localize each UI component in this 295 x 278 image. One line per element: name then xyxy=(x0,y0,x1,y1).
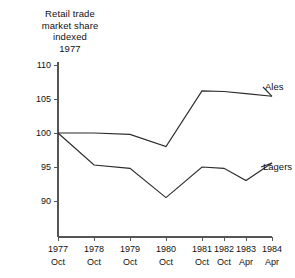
x-tick-label-month: Oct xyxy=(195,257,210,267)
series-line-lagers xyxy=(58,133,272,198)
x-tick-label-month: Apr xyxy=(265,257,279,267)
y-tick-label: 90 xyxy=(41,196,51,206)
x-tick-label-month: Oct xyxy=(87,257,102,267)
x-tick-label-month: Oct xyxy=(217,257,232,267)
chart-figure: Retail trade market share indexed 1977 1… xyxy=(0,0,295,278)
x-tick-label-year: 1982 xyxy=(214,244,234,254)
y-tick-label: 95 xyxy=(41,162,51,172)
x-tick-label-year: 1984 xyxy=(262,244,282,254)
y-tick-label: 110 xyxy=(37,60,51,70)
x-tick-label-year: 1981 xyxy=(192,244,212,254)
y-tick-label: 105 xyxy=(36,94,51,104)
series-label-lagers: Lagers xyxy=(263,161,292,172)
x-tick-label-month: Oct xyxy=(123,257,138,267)
series-line-ales xyxy=(58,91,272,147)
x-tick-label-year: 1979 xyxy=(120,244,140,254)
chart-plot-area: 11010510095901977Oct1978Oct1979Oct1980Oc… xyxy=(0,0,295,278)
x-tick-label-month: Oct xyxy=(51,257,66,267)
x-tick-label-year: 1978 xyxy=(84,244,104,254)
x-tick-label-month: Oct xyxy=(159,257,174,267)
x-tick-label-month: Apr xyxy=(239,257,253,267)
x-tick-label-year: 1980 xyxy=(156,244,176,254)
x-tick-label-year: 1977 xyxy=(48,244,68,254)
y-tick-label: 100 xyxy=(36,128,51,138)
series-label-ales: Ales xyxy=(265,81,284,92)
x-tick-label-year: 1983 xyxy=(236,244,256,254)
